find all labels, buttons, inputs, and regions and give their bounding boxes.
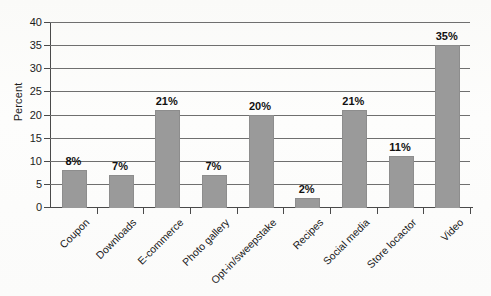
bar <box>155 110 180 208</box>
y-axis-tick <box>44 115 50 116</box>
bar-value-label: 8% <box>51 156 95 167</box>
bar-value-label: 20% <box>238 101 282 112</box>
bar-value-label: 2% <box>285 184 329 195</box>
bar <box>62 170 87 208</box>
x-axis-tick <box>377 208 378 214</box>
y-axis-tick-label: 5 <box>14 179 42 190</box>
bar-value-label: 7% <box>98 161 142 172</box>
bar <box>202 175 227 208</box>
x-axis-tick <box>470 208 471 214</box>
bar <box>435 45 460 208</box>
x-axis-tick <box>97 208 98 214</box>
x-axis-tick <box>190 208 191 214</box>
bar <box>249 115 274 209</box>
bar <box>295 198 320 208</box>
y-axis-tick <box>44 91 50 92</box>
y-axis-tick <box>44 45 50 46</box>
x-axis-tick <box>423 208 424 214</box>
gridline <box>50 22 470 23</box>
y-axis-tick <box>44 161 50 162</box>
y-axis-tick-label: 30 <box>14 63 42 74</box>
y-axis-tick <box>44 138 50 139</box>
gridline <box>50 68 470 69</box>
y-axis-title: Percent <box>12 72 24 132</box>
bar-value-label: 21% <box>331 96 375 107</box>
y-axis-tick <box>44 22 50 23</box>
y-axis-tick-label: 10 <box>14 156 42 167</box>
bar-value-label: 11% <box>378 142 422 153</box>
x-axis-tick <box>283 208 284 214</box>
bar-value-label: 7% <box>191 161 235 172</box>
y-axis-tick-label: 35 <box>14 40 42 51</box>
y-axis-tick <box>44 68 50 69</box>
y-axis-tick-label: 15 <box>14 133 42 144</box>
y-axis-tick-label: 20 <box>14 110 42 121</box>
y-axis-tick-label: 25 <box>14 86 42 97</box>
y-axis-tick-label: 40 <box>14 17 42 28</box>
gridline <box>50 45 470 46</box>
y-axis-tick <box>44 184 50 185</box>
bar-value-label: 35% <box>425 31 469 42</box>
y-axis-tick <box>44 207 50 208</box>
x-axis-tick <box>237 208 238 214</box>
bar <box>389 156 414 208</box>
bar <box>342 110 367 208</box>
gridline <box>50 91 470 92</box>
x-axis-tick <box>143 208 144 214</box>
bar <box>109 175 134 208</box>
x-axis-tick <box>330 208 331 214</box>
bar-value-label: 21% <box>145 96 189 107</box>
y-axis-tick-label: 0 <box>14 202 42 213</box>
bar-chart: Percent 0510152025303540 8%7%21%7%20%2%2… <box>0 0 491 296</box>
